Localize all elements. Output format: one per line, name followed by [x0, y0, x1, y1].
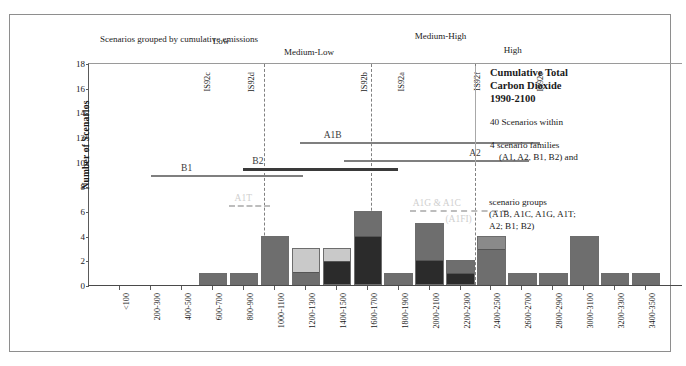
histogram-bar	[292, 248, 320, 285]
y-tick-label: 2	[81, 256, 86, 266]
group-label-medium-low: Medium-Low	[284, 47, 334, 57]
bar-segment	[416, 260, 442, 284]
bar-segment	[355, 236, 381, 284]
bar-segment	[571, 237, 597, 284]
bar-segment	[509, 274, 535, 284]
x-tick-mark	[367, 286, 368, 290]
x-tick-mark	[274, 286, 275, 290]
legend-panel: Cumulative Total Carbon Dioxide 1990-210…	[475, 66, 660, 163]
legend-groups-sub1: (A1B, A1C, A1G, A1T;	[489, 208, 669, 220]
x-tick-label: 1200-1300	[308, 293, 317, 328]
chart-figure: Scenarios grouped by cumulative emission…	[0, 0, 686, 366]
is92-label-is92b: IS92b	[360, 72, 369, 92]
x-tick-label: 3400-3500	[648, 293, 657, 328]
bar-segment	[324, 249, 350, 261]
range-bar-label-b2: B2	[252, 156, 263, 166]
group-label-medium-high: Medium-High	[415, 31, 467, 41]
dashed-range-label: A1T	[235, 193, 252, 203]
x-tick-label: 2600-2700	[524, 293, 533, 328]
is92-label-is92c: IS92c	[203, 72, 212, 92]
y-axis-title: Number of Scenarios	[81, 65, 91, 225]
x-tick-label: 2800-2900	[555, 293, 564, 328]
histogram-bar	[384, 273, 412, 285]
legend-title: Cumulative Total Carbon Dioxide 1990-210…	[490, 66, 660, 105]
x-tick-mark	[212, 286, 213, 290]
histogram-bar	[323, 248, 351, 285]
bar-segment	[231, 274, 257, 284]
x-tick-mark	[305, 286, 306, 290]
bar-segment	[602, 274, 628, 284]
x-tick-mark	[398, 286, 399, 290]
bar-segment	[478, 249, 504, 284]
x-tick-mark	[614, 286, 615, 290]
histogram-bar	[570, 236, 598, 285]
x-tick-label: 2200-2300	[463, 293, 472, 328]
range-bar-b2	[243, 168, 397, 171]
x-tick-mark	[150, 286, 151, 290]
range-bar-b1	[151, 175, 302, 177]
x-tick-label: <100	[122, 293, 131, 310]
x-tick-mark	[552, 286, 553, 290]
histogram-bar	[539, 273, 567, 285]
y-tick-mark	[86, 286, 89, 287]
legend-groups-line: scenario groups	[489, 196, 669, 208]
dashed-range-label: A1G & A1C	[413, 198, 461, 208]
histogram-bar	[261, 236, 289, 285]
x-tick-label: 400-500	[184, 293, 193, 320]
legend-title-line2: Carbon Dioxide	[490, 79, 660, 92]
x-tick-mark	[119, 286, 120, 290]
grouping-note: Scenarios grouped by cumulative emission…	[100, 33, 220, 45]
bar-segment	[355, 212, 381, 236]
bar-segment	[478, 237, 504, 249]
y-tick-label: 4	[81, 232, 86, 242]
x-tick-label: 2000-2100	[432, 293, 441, 328]
bar-segment	[447, 273, 473, 284]
x-tick-label: 600-700	[215, 293, 224, 320]
histogram-bar	[354, 211, 382, 285]
histogram-bar	[415, 223, 443, 285]
bar-segment	[416, 224, 442, 260]
x-tick-label: 200-300	[153, 293, 162, 320]
bar-segment	[385, 274, 411, 284]
y-tick-mark	[86, 261, 89, 262]
legend-groups: scenario groups (A1B, A1C, A1G, A1T; A2;…	[489, 196, 669, 232]
legend-families-sub: (A1, A2, B1, B2) and	[490, 151, 660, 163]
bar-segment	[447, 261, 473, 272]
histogram-bar	[601, 273, 629, 285]
bar-segment	[324, 261, 350, 284]
y-tick-mark	[86, 237, 89, 238]
bar-segment	[633, 274, 659, 284]
x-tick-label: 3200-3300	[617, 293, 626, 328]
group-label-high: High	[504, 45, 522, 55]
legend-families: 4 scenario families	[490, 139, 660, 151]
x-tick-mark	[645, 286, 646, 290]
x-tick-label: 1800-1900	[401, 293, 410, 328]
x-tick-label: 1400-1500	[339, 293, 348, 328]
histogram-bar	[632, 273, 660, 285]
legend-title-line1: Cumulative Total	[490, 66, 660, 79]
x-tick-mark	[336, 286, 337, 290]
x-tick-mark	[181, 286, 182, 290]
x-tick-label: 1000-1100	[277, 293, 286, 328]
histogram-bar	[199, 273, 227, 285]
group-label-low: Low	[213, 36, 230, 46]
legend-title-line3: 1990-2100	[490, 92, 660, 105]
histogram-bar	[508, 273, 536, 285]
legend-count: 40 Scenarios within	[490, 116, 660, 128]
histogram-bar	[230, 273, 258, 285]
bar-segment	[540, 274, 566, 284]
is92-label-is92a: IS92a	[397, 72, 406, 92]
x-tick-label: 1600-1700	[370, 293, 379, 328]
bar-segment	[262, 237, 288, 284]
legend-groups-sub2: A2; B1; B2)	[489, 220, 669, 232]
range-bar-label-b1: B1	[181, 163, 192, 173]
x-tick-mark	[243, 286, 244, 290]
x-tick-mark	[583, 286, 584, 290]
histogram-bar	[477, 236, 505, 285]
y-tick-label: 0	[81, 281, 86, 291]
bar-segment	[200, 274, 226, 284]
x-tick-label: 2400-2500	[493, 293, 502, 328]
x-tick-label: 3000-3100	[586, 293, 595, 328]
x-tick-mark	[490, 286, 491, 290]
bar-segment	[293, 249, 319, 272]
